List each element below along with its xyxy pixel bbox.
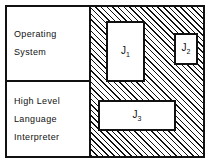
panel-operating-system: Operating System (7, 7, 89, 82)
system-software-column: Operating System High Level Language Int… (7, 7, 89, 156)
job-1-label: J1 (121, 46, 130, 58)
panel-high-level-language-interpreter: High Level Language Interpreter (7, 82, 89, 156)
job-box-1: J1 (106, 21, 145, 82)
job-3-subscript: 3 (138, 115, 142, 122)
job-box-3: J3 (98, 100, 176, 131)
interpreter-line-3: Interpreter (7, 133, 89, 142)
operating-system-line-2: System (7, 48, 89, 57)
job-2-subscript: 2 (187, 48, 191, 55)
job-2-label: J2 (182, 43, 191, 55)
interpreter-line-1: High Level (7, 97, 89, 106)
operating-system-line-1: Operating (7, 30, 89, 39)
diagram-outer-frame: Operating System High Level Language Int… (5, 5, 205, 158)
memory-allocation-diagram: Operating System High Level Language Int… (0, 0, 211, 166)
interpreter-line-2: Language (7, 115, 89, 124)
job-box-2: J2 (174, 33, 198, 65)
job-3-label: J3 (133, 110, 142, 122)
job-1-subscript: 1 (126, 51, 130, 58)
